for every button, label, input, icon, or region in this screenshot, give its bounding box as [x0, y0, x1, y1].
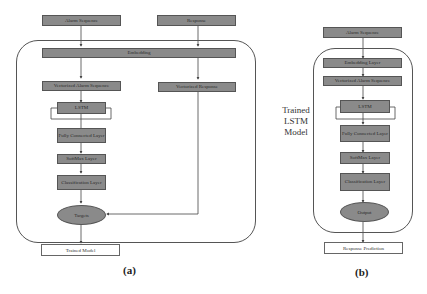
caption-b: (b)	[355, 266, 368, 278]
fully-connected-layer: Fully Connected Layer	[57, 128, 106, 143]
trained-lstm-model-label: Trained LSTM Model	[276, 105, 316, 138]
vectorized-alarm-sequence-b: Vectorized Alarm Sequence	[323, 76, 402, 86]
fully-connected-layer-b: Fully Connected Layer	[340, 125, 390, 142]
lstm-layer-b: LSTM	[340, 100, 390, 113]
vectorized-response: Vectorized Response	[158, 82, 236, 92]
response-input: Response	[157, 15, 236, 26]
training-pipeline-frame	[16, 40, 256, 243]
lstm-layer: LSTM	[57, 102, 106, 114]
softmax-layer: SoftMax Layer	[57, 154, 106, 164]
softmax-layer-b: SoftMax Layer	[340, 152, 390, 164]
trained-model-output: Trained Model	[41, 244, 120, 256]
caption-a: (a)	[123, 264, 136, 276]
alarm-sequence-input-b: Alarm Sequence	[323, 27, 402, 38]
classification-layer-b: Classification Layer	[340, 173, 390, 191]
embedding-layer-b: Embedding Layer	[323, 58, 402, 68]
embedding-layer: Embedding	[42, 48, 236, 58]
classification-layer: Classification Layer	[57, 175, 106, 190]
vectorized-alarm-sequence: Vectorized Alarm Sequence	[42, 81, 121, 91]
output-node: Output	[340, 202, 389, 222]
response-prediction-output: Response Prediction	[324, 242, 403, 254]
alarm-sequence-input: Alarm Sequence	[42, 15, 121, 26]
targets-node: Targets	[57, 205, 106, 225]
